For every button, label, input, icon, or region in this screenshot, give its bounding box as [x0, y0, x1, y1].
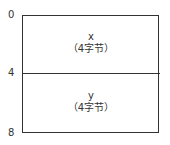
field-x: x （4字节） — [22, 31, 160, 55]
field-y-size: （4字节） — [22, 102, 160, 114]
offset-label-0: 0 — [8, 10, 14, 20]
field-x-name: x — [22, 31, 160, 43]
field-y: y （4字节） — [22, 90, 160, 114]
offset-label-4: 4 — [8, 68, 14, 78]
field-divider — [22, 73, 160, 74]
field-y-name: y — [22, 90, 160, 102]
offset-label-8: 8 — [8, 128, 14, 138]
field-x-size: （4字节） — [22, 43, 160, 55]
